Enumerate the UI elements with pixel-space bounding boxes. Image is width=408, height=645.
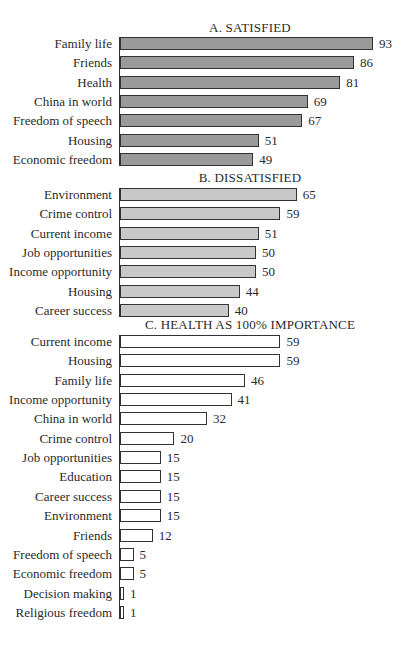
panel-title: C. HEALTH AS 100% IMPORTANCE [120,317,380,333]
value-label: 49 [259,150,272,169]
value-label: 51 [265,224,278,243]
value-label: 1 [130,603,137,622]
value-label: 59 [286,332,299,351]
category-label: Decision making [24,584,112,603]
bar-row: Friends12 [0,526,408,545]
category-label: Family life [55,34,112,53]
bar-row: Crime control20 [0,429,408,448]
category-label: Income opportunity [9,390,112,409]
bar-row: Health81 [0,73,408,92]
bar-row: Friends86 [0,53,408,72]
value-label: 5 [140,545,147,564]
category-label: Education [59,467,112,486]
bar [120,393,232,406]
value-label: 15 [167,467,180,486]
bar-row: Housing59 [0,351,408,370]
category-label: Economic freedom [13,564,112,583]
value-label: 15 [167,487,180,506]
value-label: 67 [308,111,321,130]
bar-row: Career success15 [0,487,408,506]
category-label: Freedom of speech [13,545,112,564]
category-label: Friends [73,53,112,72]
bar [120,509,161,522]
bar [120,529,153,542]
bar [120,153,253,166]
bar-row: Environment15 [0,506,408,525]
bar [120,37,373,50]
value-label: 50 [262,243,275,262]
value-label: 81 [346,73,359,92]
value-label: 59 [286,204,299,223]
category-label: Job opportunities [22,243,112,262]
bar-row: Family life93 [0,34,408,53]
category-label: Religious freedom [16,603,112,622]
bar-row: Religious freedom1 [0,603,408,622]
value-label: 15 [167,506,180,525]
category-label: Crime control [39,429,112,448]
value-label: 41 [238,390,251,409]
bar-row: Current income51 [0,224,408,243]
bar [120,56,354,69]
value-label: 93 [379,34,392,53]
bar-row: Economic freedom5 [0,564,408,583]
value-label: 12 [159,526,172,545]
bar-row: Income opportunity50 [0,262,408,281]
bar [120,207,280,220]
bar-row: Education15 [0,467,408,486]
bar [120,285,240,298]
bar-row: Family life46 [0,371,408,390]
bar-row: China in world32 [0,409,408,428]
bar-row: Freedom of speech67 [0,111,408,130]
category-label: China in world [34,409,112,428]
bar [120,188,297,201]
category-label: Housing [68,131,112,150]
category-label: Environment [44,185,112,204]
bar-row: Housing51 [0,131,408,150]
value-label: 15 [167,448,180,467]
value-label: 59 [286,351,299,370]
bar [120,587,124,600]
category-label: Economic freedom [13,150,112,169]
bar [120,490,161,503]
bar [120,227,259,240]
category-label: Housing [68,282,112,301]
bar [120,412,207,425]
value-label: 1 [130,584,137,603]
bar-row: Housing44 [0,282,408,301]
bar [120,76,340,89]
panel-title: B. DISSATISFIED [120,170,380,186]
value-label: 32 [213,409,226,428]
bar [120,432,174,445]
bar-row: Economic freedom49 [0,150,408,169]
bar-row: Income opportunity41 [0,390,408,409]
value-label: 5 [140,564,147,583]
bar [120,606,124,619]
category-label: Freedom of speech [13,111,112,130]
category-label: Job opportunities [22,448,112,467]
bar-row: Job opportunities15 [0,448,408,467]
bar [120,548,134,561]
value-label: 20 [180,429,193,448]
bar-row: China in world69 [0,92,408,111]
category-label: Family life [55,371,112,390]
value-label: 69 [314,92,327,111]
bar [120,114,302,127]
category-label: China in world [34,92,112,111]
bar [120,470,161,483]
value-label: 51 [265,131,278,150]
bar-row: Environment65 [0,185,408,204]
value-label: 50 [262,262,275,281]
bar-row: Current income59 [0,332,408,351]
category-label: Current income [31,224,112,243]
bar [120,95,308,108]
category-label: Housing [68,351,112,370]
bar [120,335,280,348]
bar [120,567,134,580]
bar-row: Job opportunities50 [0,243,408,262]
value-label: 86 [360,53,373,72]
bar [120,265,256,278]
bar-row: Freedom of speech5 [0,545,408,564]
category-label: Friends [73,526,112,545]
value-label: 44 [246,282,259,301]
category-label: Income opportunity [9,262,112,281]
